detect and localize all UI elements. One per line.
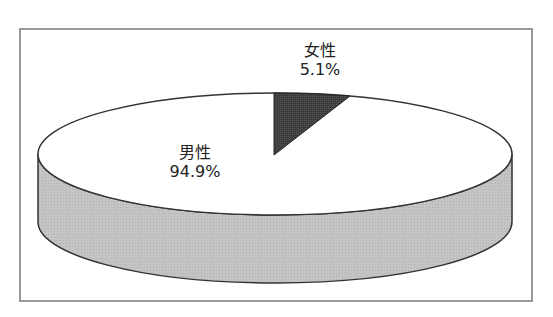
label-male-name: 男性 — [160, 143, 230, 162]
pie-chart-3d — [0, 0, 553, 317]
label-female-value: 5.1% — [290, 60, 350, 79]
label-male-value: 94.9% — [160, 162, 230, 181]
label-female: 女性 5.1% — [290, 41, 350, 79]
label-female-name: 女性 — [290, 41, 350, 60]
label-male: 男性 94.9% — [160, 143, 230, 181]
